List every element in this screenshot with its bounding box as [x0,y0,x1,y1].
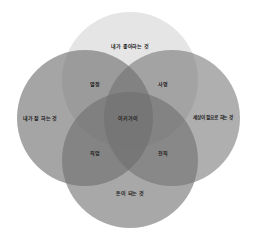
ikigai-venn-diagram: 내가 좋아하는 것 내가 잘 하는 것 세상이 필요로 하는 것 돈이 되는 것… [0,0,256,243]
intersection-label-passion: 열정 [90,80,100,87]
circle-label-needs: 세상이 필요로 하는 것 [193,114,233,120]
venn-circle-paid [62,92,198,228]
venn-circles [0,0,256,243]
circle-label-love: 내가 좋아하는 것 [111,42,149,49]
circle-label-paid: 돈이 되는 것 [116,189,144,196]
intersection-label-profession: 직업 [90,149,100,156]
center-label-ikigai: 이키가이 [118,114,138,121]
intersection-label-mission: 사명 [158,80,168,87]
circle-label-good: 내가 잘 하는 것 [23,114,57,121]
intersection-label-vocation: 천직 [158,149,168,156]
